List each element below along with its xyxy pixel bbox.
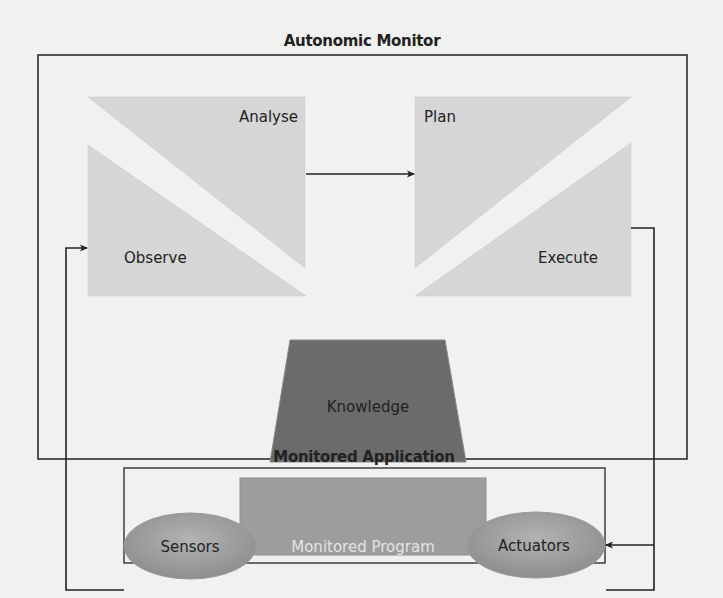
execute-label: Execute bbox=[538, 249, 598, 267]
autonomic-monitor-diagram: Autonomic Monitor Analyse Plan Observe E… bbox=[0, 0, 723, 598]
sensors-label: Sensors bbox=[160, 538, 219, 556]
autonomic-monitor-title: Autonomic Monitor bbox=[284, 32, 441, 50]
observe-label: Observe bbox=[124, 249, 187, 267]
monitored-program-label: Monitored Program bbox=[291, 538, 435, 556]
actuators-label: Actuators bbox=[498, 537, 570, 555]
monitored-application-title: Monitored Application bbox=[273, 448, 454, 466]
knowledge-label: Knowledge bbox=[327, 398, 409, 416]
analyse-label: Analyse bbox=[239, 108, 298, 126]
sensors-to-observe-arrow bbox=[66, 248, 124, 590]
plan-label: Plan bbox=[424, 108, 456, 126]
